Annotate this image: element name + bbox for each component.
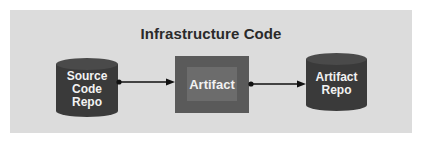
arrowhead-icon: [166, 79, 175, 86]
arrowhead-icon: [297, 81, 306, 88]
edge-source-to-artifact: [116, 79, 175, 86]
connectors: [0, 0, 422, 142]
edge-artifact-to-repo: [248, 81, 306, 88]
